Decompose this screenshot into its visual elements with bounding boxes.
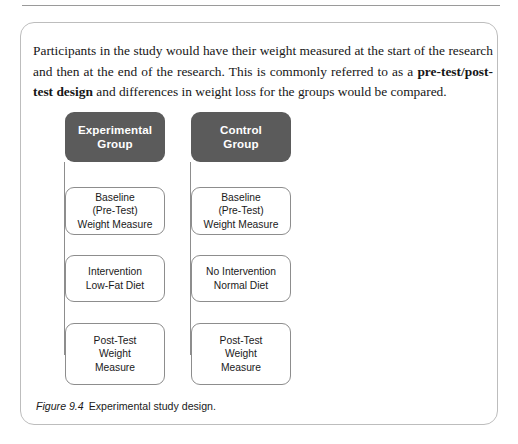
figure-caption: Figure 9.4Experimental study design. bbox=[36, 400, 216, 412]
experimental-study-design-diagram: ExperimentalGroup Baseline(Pre-Test)Weig… bbox=[0, 0, 518, 444]
node-experimental-baseline[interactable]: Baseline(Pre-Test)Weight Measure bbox=[65, 187, 165, 235]
node-control-baseline[interactable]: Baseline(Pre-Test)Weight Measure bbox=[191, 187, 291, 235]
header-box-experimental-group[interactable]: ExperimentalGroup bbox=[65, 112, 165, 162]
figure-caption-label: Figure 9.4 bbox=[36, 400, 84, 412]
node-control-no-intervention[interactable]: No InterventionNormal Diet bbox=[191, 255, 291, 302]
figure-page: Participants in the study would have the… bbox=[0, 0, 518, 444]
connector-trunk-experimental bbox=[64, 162, 65, 355]
connector-trunk-control bbox=[190, 162, 191, 355]
node-experimental-intervention[interactable]: InterventionLow-Fat Diet bbox=[65, 255, 165, 302]
figure-caption-text: Experimental study design. bbox=[89, 400, 216, 412]
header-box-control-group[interactable]: ControlGroup bbox=[191, 112, 291, 162]
node-experimental-post-test[interactable]: Post-TestWeightMeasure bbox=[65, 323, 165, 385]
node-control-post-test[interactable]: Post-TestWeightMeasure bbox=[191, 323, 291, 385]
